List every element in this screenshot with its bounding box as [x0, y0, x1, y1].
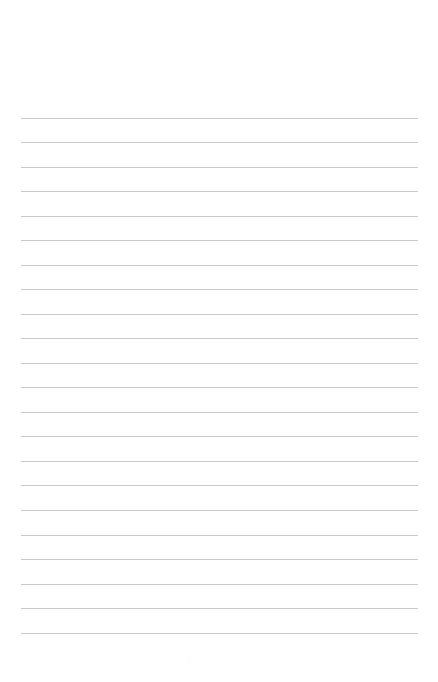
rule-line [21, 265, 418, 266]
rule-line [21, 461, 418, 462]
rule-line [21, 118, 418, 119]
rule-line [21, 633, 418, 634]
rule-line [21, 314, 418, 315]
rule-line [21, 338, 418, 339]
rule-line [21, 436, 418, 437]
rule-line [21, 167, 418, 168]
rule-line [21, 510, 418, 511]
ruled-lines-area [0, 0, 438, 682]
rule-line [21, 387, 418, 388]
rule-line [21, 535, 418, 536]
rule-line [21, 363, 418, 364]
rule-line [21, 191, 418, 192]
rule-line [21, 485, 418, 486]
rule-line [21, 289, 418, 290]
rule-line [21, 559, 418, 560]
lined-paper-sheet [0, 0, 438, 682]
rule-line [21, 412, 418, 413]
rule-line [21, 608, 418, 609]
faint-mark [187, 657, 192, 665]
rule-line [21, 584, 418, 585]
rule-line [21, 216, 418, 217]
bottom-margin-area [0, 636, 438, 682]
rule-line [21, 240, 418, 241]
rule-line [21, 142, 418, 143]
